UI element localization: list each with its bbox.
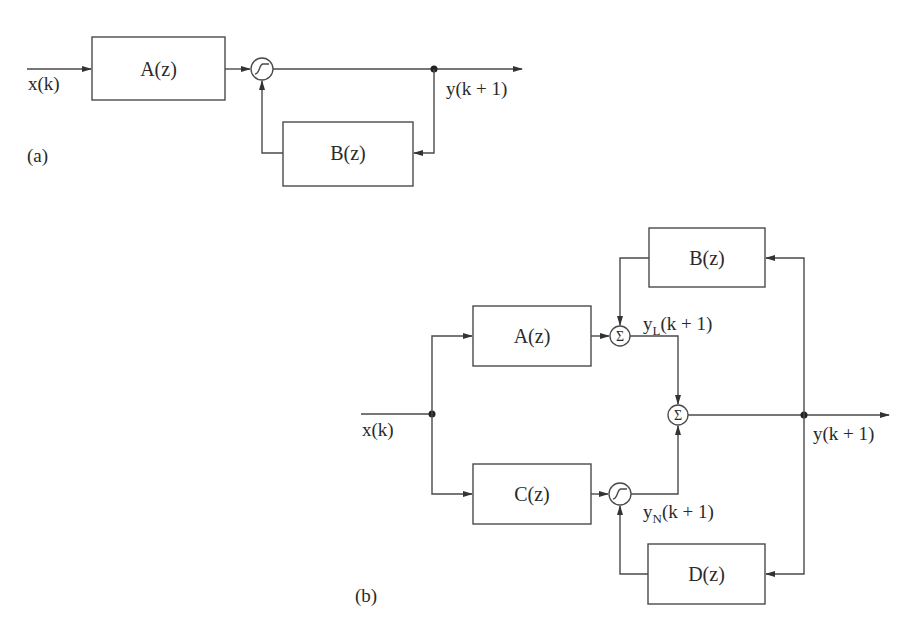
panel-label-a: (a) xyxy=(27,145,48,167)
branch-to-c-b xyxy=(432,414,472,494)
linear-output-label: yL(k + 1) xyxy=(643,313,712,338)
diagram-canvas: x(k) A(z) y(k + 1) B(z) (a) x( xyxy=(0,0,924,630)
block-d-nonlinear-feedback-label: D(z) xyxy=(688,563,725,586)
block-a-forward: A(z) xyxy=(92,37,225,100)
output-label-a: y(k + 1) xyxy=(446,78,507,100)
block-c-nonlinear-forward-label: C(z) xyxy=(514,483,550,506)
panel-label-b: (b) xyxy=(355,585,377,607)
feedback-path-to-sigmoid-a xyxy=(262,81,283,153)
summing-junction-linear: Σ xyxy=(610,326,630,346)
nonlinear-output-path-b xyxy=(631,426,678,494)
block-b-linear-feedback: B(z) xyxy=(649,228,765,287)
sigma-icon: Σ xyxy=(616,329,624,344)
block-a-linear-forward-label: A(z) xyxy=(514,325,551,348)
linear-output-path-b xyxy=(630,336,678,404)
feedback-path-to-b-a xyxy=(414,69,434,153)
nonlinear-output-label: yN(k + 1) xyxy=(643,501,714,526)
input-label-a: x(k) xyxy=(28,73,60,95)
feedback-path-to-d-b xyxy=(766,415,804,574)
block-b-feedback-label: B(z) xyxy=(330,142,366,165)
feedback-path-to-b-b xyxy=(766,258,804,415)
sigma-icon: Σ xyxy=(674,408,682,423)
output-label-b: y(k + 1) xyxy=(813,423,874,445)
block-b-feedback: B(z) xyxy=(283,122,413,186)
branch-to-a-b xyxy=(432,336,472,414)
sigmoid-node-b xyxy=(609,483,631,505)
summing-junction-output: Σ xyxy=(668,405,688,425)
diagram-b: x(k) A(z) C(z) Σ xyxy=(355,228,889,607)
block-b-linear-feedback-label: B(z) xyxy=(689,247,725,270)
block-d-nonlinear-feedback: D(z) xyxy=(648,544,765,604)
input-label-b: x(k) xyxy=(362,419,394,441)
sigmoid-node-a xyxy=(251,58,273,80)
block-a-forward-label: A(z) xyxy=(140,58,177,81)
diagram-a: x(k) A(z) y(k + 1) B(z) (a) xyxy=(27,37,522,186)
block-c-nonlinear-forward: C(z) xyxy=(473,464,591,524)
block-a-linear-forward: A(z) xyxy=(473,306,591,366)
